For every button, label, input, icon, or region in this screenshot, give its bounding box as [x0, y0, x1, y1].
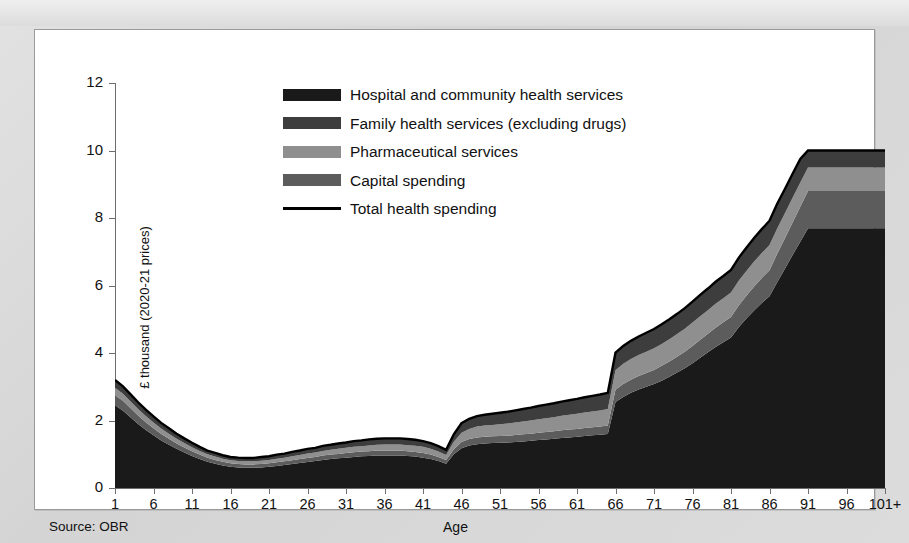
x-tick-label: 96: [838, 496, 854, 512]
source-note: Source: OBR: [49, 519, 129, 534]
x-tick-label: 66: [607, 496, 623, 512]
x-tick: [269, 488, 270, 494]
x-tick: [577, 488, 578, 494]
x-tick: [346, 488, 347, 494]
y-tick-label: 0: [59, 478, 103, 495]
x-tick-label: 61: [569, 496, 585, 512]
x-tick: [885, 488, 886, 494]
legend-item-label: Family health services (excluding drugs): [350, 116, 627, 132]
x-tick-label: 76: [684, 496, 700, 512]
legend-color-swatch: [283, 174, 341, 186]
x-tick-label: 36: [376, 496, 392, 512]
legend-item-label: Hospital and community health services: [350, 87, 623, 103]
mount-top-shade: [0, 0, 909, 26]
x-tick-label: 51: [492, 496, 508, 512]
chart-legend: Hospital and community health servicesFa…: [283, 87, 627, 217]
legend-item-label: Pharmaceutical services: [350, 144, 518, 160]
x-tick: [500, 488, 501, 494]
y-tick-label: 12: [59, 73, 103, 90]
legend-color-swatch: [283, 89, 341, 101]
x-tick-label: 91: [800, 496, 816, 512]
chart-screenshot: 024681012 £ thousand (2020-21 prices) 16…: [0, 0, 909, 543]
x-tick: [808, 488, 809, 494]
x-tick-label: 11: [184, 496, 199, 512]
x-tick-label: 1: [111, 496, 119, 512]
x-tick: [154, 488, 155, 494]
x-tick-label: 26: [299, 496, 315, 512]
x-tick: [462, 488, 463, 494]
x-axis-title: Age: [35, 519, 876, 535]
x-tick-label: 31: [338, 496, 354, 512]
x-tick-label: 16: [222, 496, 238, 512]
legend-item-label: Capital spending: [350, 173, 465, 189]
x-tick-label: 101+: [869, 496, 902, 512]
legend-item-3[interactable]: Capital spending: [283, 173, 627, 189]
x-tick: [423, 488, 424, 494]
x-tick: [115, 488, 116, 494]
x-tick-label: 21: [261, 496, 277, 512]
x-tick: [731, 488, 732, 494]
x-tick: [539, 488, 540, 494]
x-tick-label: 41: [415, 496, 431, 512]
legend-item-2[interactable]: Pharmaceutical services: [283, 144, 627, 160]
x-tick: [308, 488, 309, 494]
x-tick-label: 56: [530, 496, 546, 512]
x-tick: [616, 488, 617, 494]
y-tick-label: 2: [59, 411, 103, 428]
x-tick-label: 81: [723, 496, 739, 512]
legend-line-marker: [283, 207, 341, 210]
legend-item-0[interactable]: Hospital and community health services: [283, 87, 627, 103]
x-tick: [192, 488, 193, 494]
x-tick: [770, 488, 771, 494]
x-tick: [654, 488, 655, 494]
x-tick-label: 6: [149, 496, 157, 512]
legend-color-swatch: [283, 117, 341, 129]
x-tick: [847, 488, 848, 494]
x-tick-label: 46: [453, 496, 469, 512]
y-axis-title-host: £ thousand (2020-21 prices): [73, 150, 93, 370]
legend-item-4[interactable]: Total health spending: [283, 201, 627, 217]
legend-color-swatch: [283, 146, 341, 158]
x-tick-label: 86: [761, 496, 777, 512]
x-tick-label: 71: [646, 496, 662, 512]
chart-panel: 024681012 £ thousand (2020-21 prices) 16…: [34, 29, 875, 510]
x-tick: [231, 488, 232, 494]
x-tick: [385, 488, 386, 494]
legend-item-label: Total health spending: [350, 201, 497, 217]
legend-item-1[interactable]: Family health services (excluding drugs): [283, 116, 627, 132]
x-tick: [693, 488, 694, 494]
